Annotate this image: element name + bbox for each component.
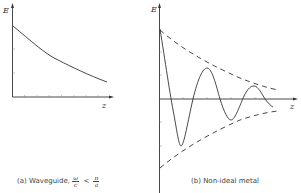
panel-b-x-axis-label: z bbox=[290, 103, 294, 111]
panel-b-damped-wave bbox=[160, 29, 273, 146]
pi-over-a-fraction: π a bbox=[93, 175, 99, 188]
panel-a-decay-curve bbox=[13, 26, 107, 82]
panel-b-lower-envelope bbox=[160, 111, 278, 168]
panel-a-caption-prefix: (a) Waveguide, bbox=[17, 177, 70, 185]
figure-graphics bbox=[0, 0, 301, 193]
omega-over-c-fraction: ω c bbox=[72, 175, 79, 188]
less-than-symbol: < bbox=[83, 178, 89, 185]
panel-a-x-axis-label: z bbox=[102, 102, 106, 110]
panel-a-plot bbox=[11, 3, 114, 99]
panel-a-y-arrow-icon bbox=[11, 3, 14, 8]
panel-a-caption: (a) Waveguide, ω c < π a bbox=[17, 175, 99, 188]
panel-a-y-axis-label: E bbox=[3, 7, 9, 15]
panel-b-y-axis-label: E bbox=[151, 6, 157, 14]
panel-b-y-arrow-icon bbox=[158, 3, 161, 8]
panel-b-caption: (b) Non-ideal metal bbox=[191, 178, 259, 185]
panel-a-x-arrow-icon bbox=[109, 96, 114, 99]
panel-b-plot bbox=[158, 3, 298, 193]
panel-b-x-arrow-icon bbox=[293, 98, 298, 101]
panel-b-upper-envelope bbox=[160, 30, 278, 90]
figure: E z (a) Waveguide, ω c < π a E z (b) Non… bbox=[0, 0, 301, 193]
